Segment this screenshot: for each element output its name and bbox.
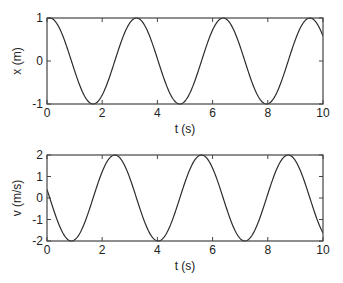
x-tick-label: 8 [264,106,271,120]
x-tick-label: 4 [154,106,161,120]
y-tick-label: -2 [32,234,43,248]
data-line [47,155,323,241]
x-tick-label: 10 [316,243,330,257]
x-tick-label: 8 [264,243,271,257]
x-tick-label: 2 [99,106,106,120]
y-tick-label: 1 [36,11,43,25]
velocity-plot: 0246810-2-1012t (s)v (m/s) [10,148,330,273]
y-tick-label: 0 [36,191,43,205]
x-axis-label: t (s) [175,122,196,136]
x-tick-label: 2 [99,243,106,257]
x-tick-label: 6 [209,243,216,257]
y-tick-label: 0 [36,54,43,68]
y-axis-label: x (m) [10,47,24,74]
x-tick-label: 4 [154,243,161,257]
y-tick-label: 2 [36,148,43,162]
position-plot: 0246810-101t (s)x (m) [10,11,330,136]
plot-frame [47,18,323,104]
x-tick-label: 6 [209,106,216,120]
plot-frame [47,155,323,241]
x-axis-label: t (s) [175,259,196,273]
x-tick-label: 0 [44,106,51,120]
figure: 0246810-101t (s)x (m) 0246810-2-1012t (s… [0,0,343,283]
y-tick-label: -1 [32,97,43,111]
y-tick-label: -1 [32,213,43,227]
data-line [47,18,323,104]
x-tick-label: 10 [316,106,330,120]
y-tick-label: 1 [36,170,43,184]
x-tick-label: 0 [44,243,51,257]
plots-canvas: 0246810-101t (s)x (m) 0246810-2-1012t (s… [0,0,343,283]
y-axis-label: v (m/s) [10,180,24,217]
